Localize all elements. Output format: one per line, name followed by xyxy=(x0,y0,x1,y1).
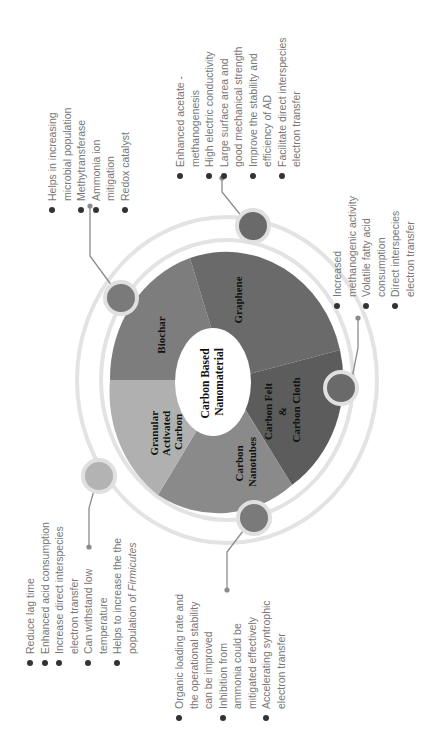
node-carbon-nanotubes xyxy=(238,502,270,534)
node-graphene xyxy=(237,210,269,242)
list-item: Can withstand lowtemperature xyxy=(81,522,110,667)
list-item: Redox catalyst xyxy=(118,108,133,214)
label-carbon-nanotubes: Carbon Nanotubes xyxy=(233,436,258,487)
list-item: Enhanced acetate -methanogenesis xyxy=(173,37,202,180)
list-item: Enhanced acid consumption xyxy=(38,522,53,667)
donut-chart xyxy=(109,252,343,513)
node-biochar xyxy=(105,282,137,314)
list-biochar: Helps in increasingmicrobial population … xyxy=(45,108,132,214)
list-item: Increase direct interspecieselectron tra… xyxy=(52,522,81,667)
list-item: Improve the stability andefficiency of A… xyxy=(246,37,275,180)
list-item: Ammonia ionmitigation xyxy=(89,108,118,214)
connector-carbon-nanotubes xyxy=(227,531,243,588)
list-carbon-felt-cloth: Increasedmethanogenic activity Volatile … xyxy=(330,196,417,310)
list-item: Reduce lag time xyxy=(23,522,38,667)
list-item: Direct interspecieselectron transfer xyxy=(388,196,417,310)
list-item: High electric conductivity xyxy=(202,37,217,180)
connector-graphene xyxy=(222,180,243,218)
list-item: Accelerating syntrophicelectron transfer xyxy=(259,594,288,722)
node-gac xyxy=(83,460,115,492)
label-graphene: Graphene xyxy=(232,276,244,323)
connector-biochar xyxy=(90,208,112,286)
list-item: Facilitate direct interspecieselectron t… xyxy=(275,37,304,180)
label-biochar: Biochar xyxy=(155,316,167,353)
list-item: Volatile fatty acidconsumption xyxy=(359,196,388,310)
list-item: Helps in increasingmicrobial population xyxy=(45,108,74,214)
list-item: Increasedmethanogenic activity xyxy=(330,196,359,310)
list-item: Organic loading rate andthe operational … xyxy=(172,594,216,722)
list-carbon-nanotubes: Organic loading rate andthe operational … xyxy=(172,594,288,722)
list-item: Inhibition fromammonia could bemitigated… xyxy=(216,594,260,722)
list-item: Large surface area andgood mechanical st… xyxy=(217,37,246,180)
list-item: Helps to increase the thepopulation of F… xyxy=(110,522,139,667)
list-granular-activated-carbon: Reduce lag time Enhanced acid consumptio… xyxy=(23,522,139,667)
label-granular-activated-carbon: Granular Activated Carbon xyxy=(148,408,184,456)
node-carbon-felt-cloth xyxy=(325,372,357,404)
list-graphene: Enhanced acetate -methanogenesis High el… xyxy=(173,37,304,180)
list-item: Methytransferase xyxy=(74,108,89,214)
